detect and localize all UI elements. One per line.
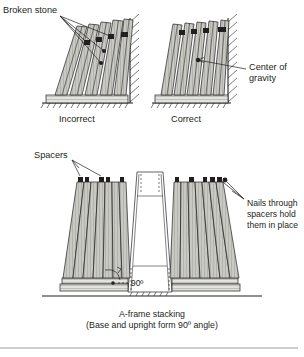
label-angle-90: 90º	[131, 278, 143, 288]
callout-nails-line1: Nails through	[247, 198, 298, 208]
callout-nails-line2: spacers hold	[247, 209, 296, 219]
base-plank	[60, 284, 128, 291]
base-plank-incorrect	[46, 95, 128, 103]
callout-nails-line3: them in place	[247, 220, 298, 230]
caption-title: A-frame stacking	[119, 309, 185, 319]
base-plank	[172, 284, 240, 291]
label-correct: Correct	[171, 114, 202, 124]
base-plank	[172, 278, 238, 284]
base-plank-correct	[155, 95, 228, 103]
callout-center-of-gravity-line1: Center of	[249, 62, 287, 72]
stone-stacking-diagram: Broken stone Incorrect	[0, 0, 304, 357]
callout-center-of-gravity-line2: gravity	[249, 73, 276, 83]
callout-spacers: Spacers	[34, 150, 68, 160]
label-incorrect: Incorrect	[59, 114, 95, 124]
caption-subtitle: (Base and upright form 90º angle)	[86, 320, 218, 330]
callout-broken-stone: Broken stone	[3, 5, 57, 15]
